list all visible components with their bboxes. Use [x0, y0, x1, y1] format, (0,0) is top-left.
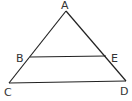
segment-ad [66, 11, 126, 81]
label-b: B [16, 52, 24, 65]
label-a: A [61, 0, 69, 12]
label-c: C [4, 86, 12, 99]
triangle-diagram: A B C D E [0, 0, 132, 101]
segment-ac [9, 11, 66, 83]
label-e: E [111, 52, 118, 65]
segment-cd [9, 81, 126, 83]
segment-be [30, 56, 106, 57]
label-d: D [120, 85, 128, 98]
